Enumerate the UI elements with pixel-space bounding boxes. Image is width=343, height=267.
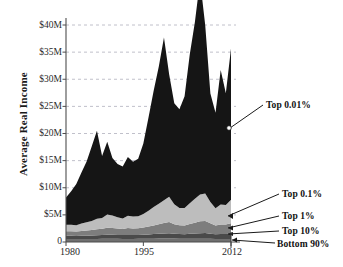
y-tick-label: $25M: [39, 101, 62, 111]
annotation-leader-lines: [227, 105, 279, 248]
y-tick-0: 0: [20, 236, 62, 246]
leader-line-top-0-1-percent: [228, 194, 279, 216]
annotation-bottom-90-percent: Bottom 90%: [277, 239, 329, 249]
leader-line-top-0-01-percent: [230, 105, 263, 128]
y-tick-label: $10M: [39, 182, 62, 192]
annotation-top-10-percent: Top 10%: [282, 226, 320, 236]
y-tick-label: $30M: [39, 74, 62, 84]
annotation-top-0-01-percent: Top 0.01%: [266, 100, 311, 110]
area-series-top-0-01: [66, 0, 231, 225]
y-tick-25m: $25M: [20, 101, 62, 111]
y-tick-40m: $40M: [20, 20, 62, 30]
x-tick-1980: 1980: [50, 246, 90, 257]
y-tick-label: $5M: [44, 209, 62, 219]
y-tick-5m: $5M: [20, 209, 62, 219]
y-tick-15m: $15M: [20, 155, 62, 165]
leader-line-top-10-percent: [228, 231, 279, 234]
chart-figure: Average Real Income $40M $35M $30M $25M …: [0, 0, 343, 267]
y-tick-10m: $10M: [20, 182, 62, 192]
y-tick-label: $40M: [39, 20, 62, 30]
leader-line-top-1-percent: [228, 216, 279, 228]
y-tick-30m: $30M: [20, 74, 62, 84]
annotation-top-0-1-percent: Top 0.1%: [282, 189, 322, 199]
stacked-areas: [66, 0, 231, 242]
y-tick-35m: $35M: [20, 47, 62, 57]
y-tick-label: 0: [57, 236, 62, 246]
y-tick-label: $35M: [39, 47, 62, 57]
x-tick-1995: 1995: [124, 246, 164, 257]
y-tick-20m: $20M: [20, 128, 62, 138]
y-tick-label: $15M: [39, 155, 62, 165]
x-tick-2012: 2012: [212, 246, 252, 257]
y-tick-label: $20M: [39, 128, 62, 138]
annotation-top-1-percent: Top 1%: [282, 211, 315, 221]
leader-dot-top-0-01-percent: [227, 126, 232, 131]
